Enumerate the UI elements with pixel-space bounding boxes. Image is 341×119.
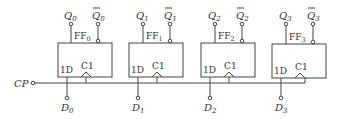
svg-text:FF0: FF0	[74, 31, 91, 43]
flip-flop-1: Q1 Q1 FF1 1D C1 D1	[129, 8, 183, 115]
svg-text:Q3: Q3	[279, 10, 292, 23]
flip-flop-2: Q2 Q2 FF2 1D C1 D2	[201, 8, 255, 115]
svg-text:C1: C1	[295, 62, 308, 72]
svg-text:Q2: Q2	[208, 10, 221, 23]
svg-text:D1: D1	[131, 102, 145, 115]
svg-text:FF2: FF2	[218, 31, 235, 43]
svg-text:1D: 1D	[274, 66, 287, 76]
svg-text:FF1: FF1	[146, 31, 163, 43]
inverted-output-bubble	[96, 39, 100, 43]
svg-text:FF3: FF3	[289, 32, 306, 44]
svg-text:C1: C1	[81, 61, 94, 71]
svg-text:D2: D2	[203, 102, 217, 115]
flip-flop-3: Q3 Q3 FF3 1D C1 D3	[272, 8, 326, 115]
svg-text:Q1: Q1	[164, 10, 177, 23]
svg-text:Q0: Q0	[64, 10, 77, 23]
flip-flop-0: Q0 Q0 FF0 1D C1 D0	[58, 8, 112, 115]
svg-text:Q0: Q0	[92, 10, 105, 23]
cp-label: CP	[14, 78, 29, 89]
cp-terminal	[31, 81, 35, 85]
svg-text:C1: C1	[224, 61, 237, 71]
svg-text:D0: D0	[60, 102, 74, 115]
svg-text:1D: 1D	[60, 65, 73, 75]
svg-text:C1: C1	[152, 61, 165, 71]
svg-text:1D: 1D	[203, 65, 216, 75]
svg-text:1D: 1D	[131, 65, 144, 75]
register-circuit: CP Q0 Q0 FF0 1D C1 D0 Q1 Q1 FF1 1D C1	[0, 0, 341, 119]
svg-text:Q3: Q3	[307, 10, 320, 23]
svg-text:D3: D3	[274, 102, 288, 115]
svg-text:Q1: Q1	[136, 10, 149, 23]
svg-text:Q2: Q2	[236, 10, 249, 23]
